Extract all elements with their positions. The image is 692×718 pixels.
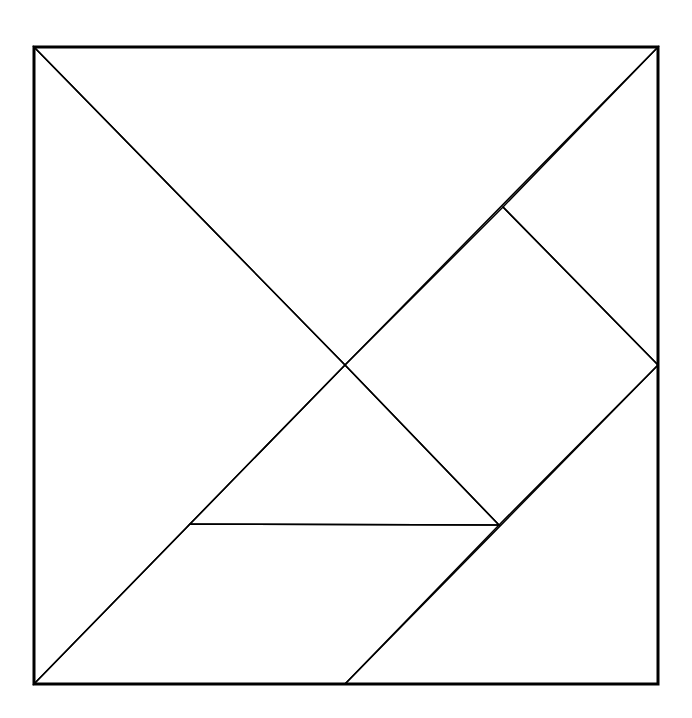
tangram-diagram [0,0,692,718]
small-triangle-right-top [503,47,658,365]
large-triangle-top [34,47,658,365]
small-triangle-center [190,365,499,525]
square [345,207,658,525]
large-triangle-left [34,47,345,684]
parallelogram [34,524,499,684]
